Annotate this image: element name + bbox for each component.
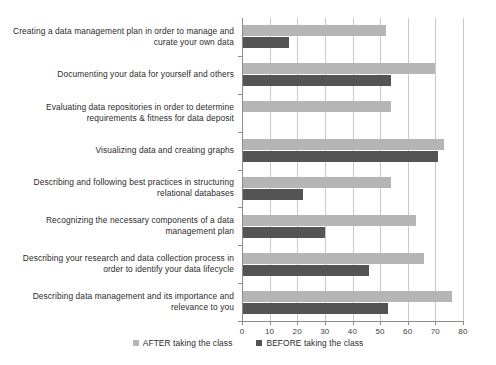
x-tick-label-70: 70 (431, 327, 440, 336)
bar-before-0 (242, 37, 289, 48)
y-tick-mark-7 (238, 321, 242, 322)
y-tick-mark-2 (238, 132, 242, 133)
bar-after-2 (242, 101, 391, 112)
bar-after-7 (242, 291, 452, 302)
gridline-80 (463, 18, 464, 321)
plot-area (242, 18, 463, 321)
x-tick-mark-60 (408, 321, 409, 325)
category-label-1: Documenting your data for yourself and o… (12, 69, 234, 80)
x-tick-label-60: 60 (403, 327, 412, 336)
bar-after-5 (242, 215, 416, 226)
bar-after-4 (242, 177, 391, 188)
x-tick-label-10: 10 (265, 327, 274, 336)
y-tick-mark-0 (238, 56, 242, 57)
y-tick-mark-5 (238, 245, 242, 246)
x-tick-label-20: 20 (293, 327, 302, 336)
gridline-70 (435, 18, 436, 321)
bar-before-4 (242, 189, 303, 200)
bar-after-3 (242, 139, 444, 150)
y-tick-mark-6 (238, 283, 242, 284)
x-tick-mark-30 (325, 321, 326, 325)
legend-item-after[interactable]: AFTER taking the class (133, 338, 233, 348)
x-tick-label-80: 80 (458, 327, 467, 336)
x-tick-label-40: 40 (348, 327, 357, 336)
x-tick-mark-70 (435, 321, 436, 325)
legend-swatch-before-icon (256, 340, 262, 346)
x-tick-label-50: 50 (375, 327, 384, 336)
bar-after-1 (242, 63, 435, 74)
x-tick-label-0: 0 (240, 327, 245, 336)
x-tick-mark-0 (242, 321, 243, 325)
category-label-7: Describing data management and its impor… (12, 291, 234, 313)
bar-chart: 01020304050607080 Creating a data manage… (0, 0, 496, 365)
legend-item-before[interactable]: BEFORE taking the class (256, 338, 363, 348)
chart-legend: AFTER taking the class BEFORE taking the… (0, 338, 496, 348)
x-tick-label-30: 30 (320, 327, 329, 336)
x-tick-mark-50 (380, 321, 381, 325)
y-tick-mark-1 (238, 94, 242, 95)
legend-swatch-after-icon (133, 340, 139, 346)
y-axis-line (242, 18, 243, 321)
bar-before-6 (242, 265, 369, 276)
category-label-5: Recognizing the necessary components of … (12, 215, 234, 237)
category-label-4: Describing and following best practices … (12, 177, 234, 199)
bar-before-3 (242, 151, 438, 162)
category-label-0: Creating a data management plan in order… (12, 26, 234, 48)
category-label-3: Visualizing data and creating graphs (12, 145, 234, 156)
x-tick-mark-10 (270, 321, 271, 325)
legend-label-before: BEFORE taking the class (266, 338, 363, 348)
x-tick-mark-40 (353, 321, 354, 325)
bar-after-0 (242, 25, 386, 36)
category-label-6: Describing your research and data collec… (12, 253, 234, 275)
x-tick-mark-20 (297, 321, 298, 325)
legend-label-after: AFTER taking the class (143, 338, 233, 348)
y-tick-mark-4 (238, 207, 242, 208)
bar-after-6 (242, 253, 424, 264)
bar-before-7 (242, 303, 388, 314)
y-tick-mark-3 (238, 170, 242, 171)
x-tick-mark-80 (463, 321, 464, 325)
bar-before-5 (242, 227, 325, 238)
category-label-2: Evaluating data repositories in order to… (12, 102, 234, 124)
bar-before-1 (242, 75, 391, 86)
